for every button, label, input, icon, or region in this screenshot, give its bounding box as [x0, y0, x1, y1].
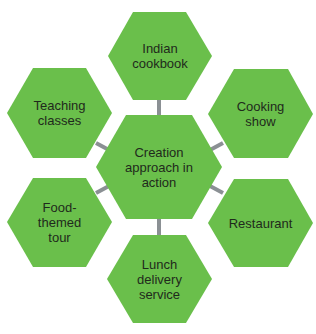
- connector-lower-left: [96, 186, 109, 193]
- hexagon-restaurant: [208, 179, 313, 267]
- hexagon-center: [96, 115, 222, 219]
- connector-lower-right: [210, 186, 223, 193]
- hexagon-indian-cookbook: [108, 12, 212, 100]
- hexagon-lunch-delivery-service: [107, 235, 212, 323]
- hexagon-diagram: [0, 0, 316, 334]
- connector-upper-right: [210, 143, 223, 150]
